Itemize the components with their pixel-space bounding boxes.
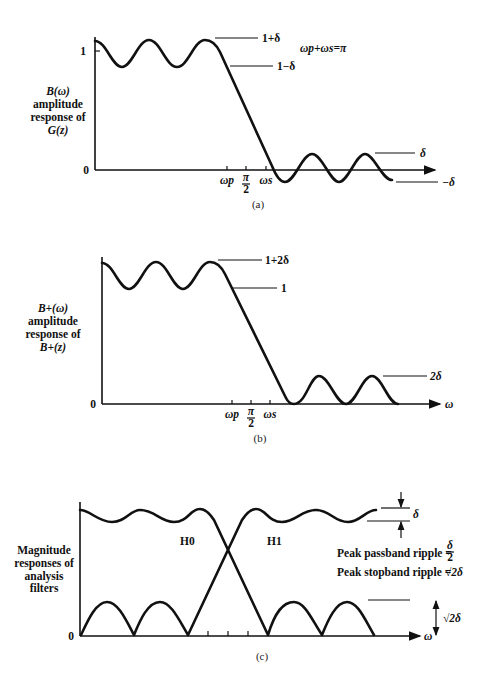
panel-a-ytick-label-0: 0 (83, 164, 89, 176)
panel-a-xtick-label-ws: ωs (260, 174, 273, 186)
panel-a-ylabel-line3: response of (30, 111, 85, 124)
panel-c: Magnitude responses of analysis filters … (14, 492, 463, 663)
panel-c-ytick-label-0: 0 (68, 630, 74, 642)
figure-canvas: B(ω) amplitude response of G(z) 1 0 ωp π… (0, 0, 492, 673)
panel-a-xtick-label-pi: π (243, 171, 250, 183)
panel-a-ylabel-line4: G(z) (48, 124, 69, 137)
panel-a-response-curve (95, 40, 392, 182)
panel-a-caption: (a) (252, 198, 265, 211)
panel-a-ytick-label-1: 1 (80, 45, 86, 57)
panel-a-stop-neg-label: −δ (442, 176, 455, 188)
panel-b-ylabel-line2: amplitude (28, 315, 78, 328)
panel-c-ylabel-line2: responses of (14, 557, 74, 570)
panel-b-ylabel-line3: response of (25, 328, 80, 341)
panel-b-xtick-label-pi: π (248, 405, 255, 417)
panel-a-ylabel-line2: amplitude (33, 98, 83, 111)
panel-a-stop-pos-label: δ (420, 147, 426, 159)
panel-b-upper-label: 1+2δ (265, 254, 289, 266)
panel-a-ylabel-line1: B(ω) (45, 85, 70, 98)
panel-b-xtick-label-wp: ωp (225, 408, 239, 421)
panel-c-stopband-value: √2δ (445, 566, 463, 578)
panel-b-response-curve (102, 262, 398, 404)
panel-c-h1-label: H1 (267, 535, 282, 547)
panel-c-passband-text: Peak passband ripple = (337, 547, 452, 560)
panel-c-ylabel-line1: Magnitude (17, 544, 71, 557)
panel-b-ytick-label-0: 0 (90, 398, 96, 410)
panel-c-ylabel-line4: filters (30, 582, 59, 594)
panel-b-ylabel-line4: B+(z) (39, 341, 67, 354)
panel-c-h0-label: H0 (180, 535, 195, 547)
panel-a: B(ω) amplitude response of G(z) 1 0 ωp π… (30, 32, 454, 211)
panel-c-passband-den: 2 (447, 551, 453, 563)
panel-b-xtick-label-ws: ωs (264, 408, 277, 420)
panel-b: B+(ω) amplitude response of B+(z) 0 ω ωp… (25, 254, 453, 445)
panel-c-caption: (c) (256, 650, 269, 663)
panel-c-ripple-label: δ (413, 508, 419, 520)
panel-c-stop-height-label: √2δ (443, 612, 461, 624)
panel-b-x-axis-label: ω (445, 398, 453, 410)
panel-b-caption: (b) (254, 432, 267, 445)
panel-b-ylabel-line1: B+(ω) (37, 302, 68, 315)
panel-a-lower-label: 1−δ (277, 60, 295, 72)
panel-a-xtick-label-wp: ωp (220, 174, 234, 187)
panel-a-xtick-label-2: 2 (243, 183, 249, 195)
panel-a-upper-label: 1+δ (262, 32, 280, 44)
panel-c-stopband-text: Peak stopband ripple = (337, 566, 451, 579)
panel-a-relation-label: ωp+ωs=π (300, 42, 347, 55)
panel-b-xtick-label-2: 2 (248, 417, 254, 429)
panel-b-lower-label: 1 (281, 282, 287, 294)
panel-c-passband-num: δ (447, 539, 453, 551)
panel-c-x-axis-label: ω (424, 630, 432, 642)
panel-b-stop-label: 2δ (429, 370, 442, 382)
